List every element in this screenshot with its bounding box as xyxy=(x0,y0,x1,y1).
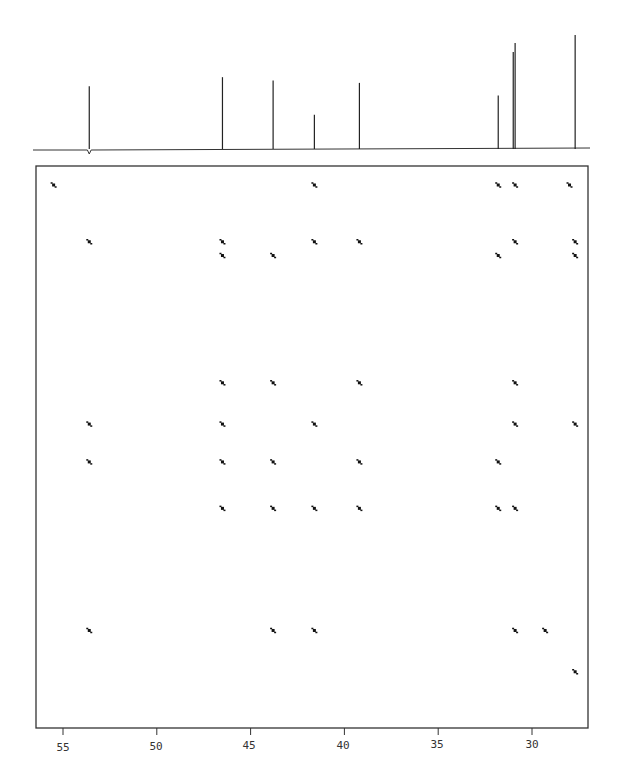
cross-peak xyxy=(495,253,501,258)
cross-peak xyxy=(512,380,518,386)
cross-peak xyxy=(572,253,578,258)
cross-peak xyxy=(219,506,225,512)
cross-peak xyxy=(356,239,362,245)
x-tick-label-40: 40 xyxy=(336,739,349,752)
cross-peak xyxy=(311,182,317,188)
cross-peak xyxy=(86,459,92,465)
cross-peak xyxy=(219,421,225,427)
cross-peak xyxy=(495,182,501,188)
cross-peak xyxy=(512,182,518,188)
cross-peak xyxy=(356,506,362,512)
cross-peak xyxy=(219,380,225,386)
cross-peak xyxy=(219,239,225,245)
cross-peak xyxy=(270,506,276,512)
cross-peak xyxy=(512,628,518,634)
x-tick-label-50: 50 xyxy=(149,740,162,753)
cross-peak xyxy=(311,506,317,512)
cross-peak xyxy=(356,380,362,386)
x-tick-label-45: 45 xyxy=(242,739,255,752)
cross-peak xyxy=(311,421,317,427)
cross-peak xyxy=(572,669,578,675)
cross-peak xyxy=(86,421,92,427)
cross-peak xyxy=(270,380,276,386)
cross-peak xyxy=(219,253,225,258)
contour-plot-frame xyxy=(36,166,588,728)
x-tick-label-35: 35 xyxy=(430,738,443,751)
cross-peak xyxy=(270,459,276,465)
cross-peak xyxy=(51,182,57,188)
cross-peak xyxy=(512,239,518,245)
cross-peak xyxy=(567,182,573,188)
projection-baseline xyxy=(33,148,590,154)
cross-peaks xyxy=(51,182,579,674)
x-axis: 55 50 45 40 35 30 xyxy=(56,728,538,754)
cross-peak xyxy=(495,506,501,512)
cross-peak xyxy=(512,421,518,427)
cross-peak xyxy=(270,253,276,258)
cross-peak xyxy=(356,459,362,465)
cross-peak xyxy=(219,459,225,465)
cross-peak xyxy=(311,239,317,245)
cross-peak xyxy=(542,628,548,634)
nmr-2d-spectrum-figure: 55 50 45 40 35 30 xyxy=(0,0,619,771)
cross-peak xyxy=(572,239,578,245)
cross-peak xyxy=(495,459,501,465)
cross-peak xyxy=(86,628,92,634)
x-tick-label-30: 30 xyxy=(525,738,538,751)
x-tick-label-55: 55 xyxy=(56,741,69,754)
cross-peak xyxy=(86,239,92,245)
1d-projection-spectrum xyxy=(33,35,590,154)
cross-peak xyxy=(572,421,578,427)
cross-peak xyxy=(311,628,317,634)
cross-peak xyxy=(270,628,276,634)
cross-peak xyxy=(512,506,518,512)
spectrum-chart: 55 50 45 40 35 30 xyxy=(0,0,619,771)
